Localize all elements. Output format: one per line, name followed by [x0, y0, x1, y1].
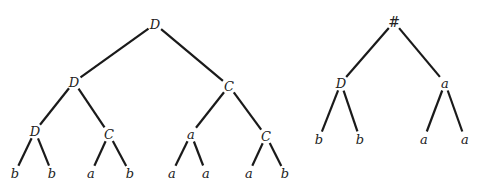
tree-node-label: a: [420, 132, 428, 147]
tree-edge: [194, 142, 203, 166]
tree-edge: [252, 143, 262, 165]
tree-edge: [270, 143, 282, 166]
tree-node-label: D: [29, 124, 41, 139]
tree-edge: [94, 141, 105, 165]
tree-edge: [346, 28, 389, 77]
tree-edge: [176, 141, 188, 166]
tree-node-label: b: [11, 166, 19, 181]
tree-node-label: D: [149, 17, 161, 32]
tree-edge: [196, 92, 224, 127]
tree-diagram-canvas: DDCDCaCbbabaaab#Dabbaa: [0, 0, 481, 188]
tree-node-label: a: [441, 76, 449, 91]
tree-edge: [113, 141, 126, 166]
tree-node-label: a: [87, 166, 95, 181]
tree-node-label: a: [168, 166, 176, 181]
tree-node-label: b: [126, 166, 134, 181]
tree-node-label: a: [202, 166, 210, 181]
tree-edges: [18, 28, 462, 166]
tree-edge: [18, 138, 31, 166]
tree-node-label: b: [281, 166, 289, 181]
tree-edge: [40, 88, 69, 124]
tree-edge: [81, 29, 149, 78]
tree-edge: [234, 92, 261, 129]
tree-edge: [448, 91, 463, 132]
tree-node-label: b: [356, 132, 364, 147]
tree-node-label: D: [68, 75, 80, 90]
tree-edge: [399, 28, 440, 77]
tree-edge: [161, 29, 223, 81]
tree-node-label: a: [245, 166, 253, 181]
tree-node-label: C: [104, 127, 114, 142]
tree-node-label: #: [388, 14, 400, 30]
tree-node-label: a: [187, 127, 195, 142]
tree-edge: [427, 91, 442, 132]
tree-edge: [322, 90, 338, 131]
tree-node-label: D: [335, 76, 347, 91]
tree-edge: [79, 89, 105, 128]
tree-node-label: C: [224, 79, 234, 94]
tree-node-label: b: [315, 132, 323, 147]
tree-nodes: DDCDCaCbbabaaab#Dabbaa: [11, 14, 469, 181]
tree-edge: [344, 91, 358, 132]
tree-edge: [38, 138, 49, 165]
tree-node-label: C: [261, 129, 271, 144]
tree-node-label: b: [48, 166, 56, 181]
tree-node-label: a: [461, 132, 469, 147]
